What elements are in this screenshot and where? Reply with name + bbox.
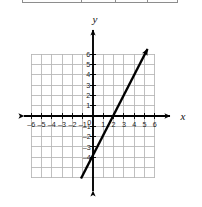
x-tick-label: –2 [68,120,76,129]
x-tick-label: 1 [101,120,105,129]
y-tick-label: –3 [83,143,91,152]
x-tick-label: 5 [143,120,147,129]
y-tick-label: 4 [86,70,90,79]
x-tick-label: 3 [122,120,126,129]
y-tick-label: 3 [86,81,90,90]
y-tick-label: –2 [83,132,91,141]
x-tick-label: 6 [153,120,157,129]
y-tick-label: 6 [86,50,90,59]
x-tick-label: 4 [132,120,136,129]
x-tick-label: –4 [48,120,56,129]
origin-label: 0 [87,118,91,127]
x-axis-label: x [180,110,186,122]
plotted-line [81,49,148,179]
x-tick-label: –6 [27,120,35,129]
y-axis-label: y [92,13,98,25]
x-tick-label: 2 [112,120,116,129]
graph-canvas: –6 –5 –4 –3 –2 –1 1 2 3 4 5 6 6 5 4 3 2 … [0,0,202,207]
x-tick-label: –5 [38,120,46,129]
y-tick-label: 1 [86,101,90,110]
y-tick-label: 2 [86,91,90,100]
x-tick-label: –3 [58,120,66,129]
coordinate-plane-figure: –6 –5 –4 –3 –2 –1 1 2 3 4 5 6 6 5 4 3 2 … [0,0,202,207]
x-tick-labels: –6 –5 –4 –3 –2 –1 1 2 3 4 5 6 [27,120,157,129]
y-tick-label: 5 [86,60,90,69]
